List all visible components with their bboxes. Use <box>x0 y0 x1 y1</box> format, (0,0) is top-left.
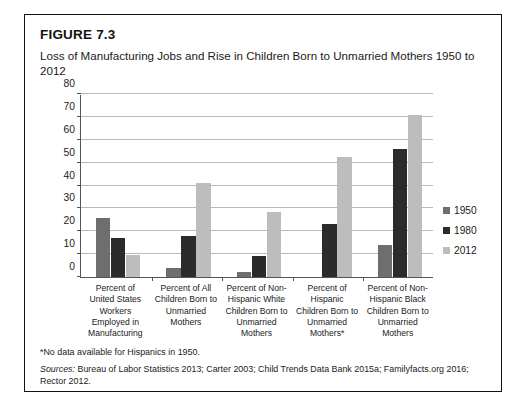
bar-2012 <box>267 212 282 277</box>
gridline <box>81 93 433 94</box>
bar-1980 <box>322 224 337 277</box>
y-axis-tick-label: 30 <box>64 192 75 203</box>
y-axis-tick-label: 50 <box>64 146 75 157</box>
bar-1950 <box>166 268 181 277</box>
y-axis-tick-label: 60 <box>64 123 75 134</box>
x-axis-category-label-line: Mothers <box>356 328 439 339</box>
y-axis-tick-label: 10 <box>64 238 75 249</box>
bar-1980 <box>252 256 267 277</box>
figure-header: FIGURE 7.3 Loss of Manufacturing Jobs an… <box>40 28 488 79</box>
y-axis-tick-label: 70 <box>64 100 75 111</box>
chart-legend: 195019802012 <box>443 205 503 265</box>
legend-label: 2012 <box>454 245 477 256</box>
figure-notes: *No data available for Hispanics in 1950… <box>40 347 490 387</box>
bar-group <box>363 95 434 277</box>
legend-item-1980: 1980 <box>443 225 503 236</box>
bar-2012 <box>408 115 423 277</box>
y-axis-tick-mark <box>77 93 81 94</box>
y-axis-tick-label: 40 <box>64 169 75 180</box>
bar-1950 <box>237 272 252 277</box>
figure-title: Loss of Manufacturing Jobs and Rise in C… <box>40 48 488 79</box>
bar-2012 <box>196 183 211 277</box>
sources-label: Sources: <box>40 364 75 374</box>
legend-item-1950: 1950 <box>443 205 503 216</box>
legend-swatch-icon <box>443 207 450 214</box>
x-axis-tick-mark <box>293 277 294 281</box>
plot-area: 01020304050607080 <box>80 95 433 278</box>
bar-group <box>293 95 364 277</box>
legend-swatch-icon <box>443 227 450 234</box>
y-axis-tick-label: 0 <box>69 261 75 272</box>
x-axis-category-label: Percent of Non-Hispanic BlackChildren Bo… <box>356 283 439 340</box>
bar-group <box>81 95 152 277</box>
bar-2012 <box>337 157 352 277</box>
x-axis-labels: Percent ofUnited StatesWorkersEmployed i… <box>80 283 432 347</box>
sources-text: Bureau of Labor Statistics 2013; Carter … <box>40 364 469 386</box>
figure-number: FIGURE 7.3 <box>40 28 488 43</box>
x-axis-tick-mark <box>152 277 153 281</box>
x-axis-category-label-line: Manufacturing <box>74 328 157 339</box>
x-axis-category-label-line: Percent of Non- <box>356 283 439 294</box>
x-axis-tick-mark <box>363 277 364 281</box>
sources-line: Sources: Bureau of Labor Statistics 2013… <box>40 363 490 387</box>
bar-2012 <box>126 255 141 277</box>
x-axis-category-label-line: Unmarried <box>356 317 439 328</box>
footnote: *No data available for Hispanics in 1950… <box>40 347 490 359</box>
bar-group <box>222 95 293 277</box>
bar-chart: 01020304050607080 Percent ofUnited State… <box>40 87 490 349</box>
legend-label: 1980 <box>454 225 477 236</box>
legend-swatch-icon <box>443 247 450 254</box>
bar-1950 <box>96 218 111 277</box>
bar-group <box>152 95 223 277</box>
y-axis-tick-label: 80 <box>64 78 75 89</box>
legend-label: 1950 <box>454 205 477 216</box>
legend-item-2012: 2012 <box>443 245 503 256</box>
bar-1980 <box>181 236 196 277</box>
x-axis-category-label-line: Children Born to <box>356 306 439 317</box>
bars-layer <box>81 95 433 277</box>
bar-1950 <box>378 245 393 277</box>
bar-1980 <box>111 238 126 277</box>
x-axis-category-label-line: Hispanic Black <box>356 294 439 305</box>
y-axis-tick-label: 20 <box>64 215 75 226</box>
bar-1980 <box>393 149 408 277</box>
x-axis-tick-mark <box>222 277 223 281</box>
figure-frame: FIGURE 7.3 Loss of Manufacturing Jobs an… <box>24 14 502 392</box>
